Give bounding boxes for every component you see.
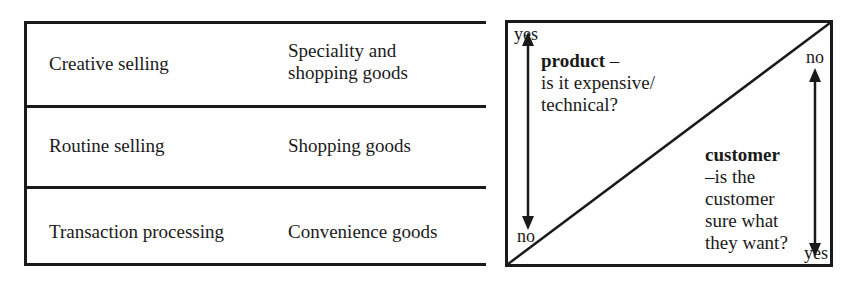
goods-cell: Convenience goods — [288, 221, 437, 243]
table-row: Creative selling Speciality and shopping… — [27, 24, 486, 108]
table-row: Transaction processing Convenience goods — [27, 189, 486, 266]
selling-type-cell: Transaction processing — [49, 221, 224, 243]
goods-cell: Shopping goods — [288, 135, 411, 157]
selling-types-table: Creative selling Speciality and shopping… — [24, 21, 486, 266]
table-row: Routine selling Shopping goods — [27, 108, 486, 189]
goods-cell-line1: Speciality and — [288, 40, 396, 62]
selling-type-cell: Creative selling — [49, 53, 169, 75]
product-question: product – is it expensive/ technical? — [541, 50, 655, 116]
product-customer-diagram: yes no no yes product – is it expensive/… — [505, 20, 833, 267]
customer-question: customer –is the customer sure what they… — [705, 144, 788, 254]
selling-type-cell: Routine selling — [49, 135, 165, 157]
customer-title: customer — [705, 144, 780, 165]
left-axis-no-label: no — [517, 226, 535, 247]
right-axis-yes-label: yes — [804, 243, 828, 264]
goods-cell-line2: shopping goods — [288, 62, 408, 84]
arrow-up-icon — [809, 68, 821, 82]
product-title: product — [541, 50, 605, 71]
right-axis-no-label: no — [806, 47, 824, 68]
left-axis-yes-label: yes — [514, 24, 538, 45]
